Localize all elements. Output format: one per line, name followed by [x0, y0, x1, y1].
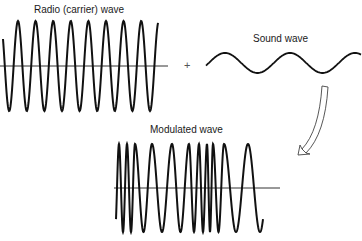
- modulated-wave-label: Modulated wave: [150, 124, 223, 136]
- curved-arrow-icon: [298, 86, 328, 155]
- sound-wave-label: Sound wave: [253, 33, 308, 45]
- plus-sign: +: [184, 59, 190, 71]
- sound-wave: [206, 53, 361, 73]
- carrier-wave-label: Radio (carrier) wave: [34, 4, 124, 16]
